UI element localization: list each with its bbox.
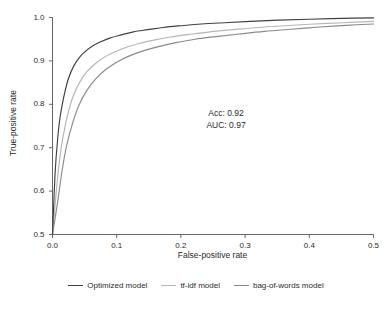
- legend-entry: Optimized model: [68, 281, 147, 290]
- accuracy-value: Acc: 0.92: [186, 107, 266, 119]
- legend-line-swatch: [234, 285, 249, 286]
- y-tick-label: 0.5: [23, 230, 45, 239]
- legend-label: Optimized model: [87, 281, 147, 290]
- auc-value: AUC: 0.97: [186, 119, 266, 131]
- legend-label: tf-idf model: [180, 281, 220, 290]
- x-tick-label: 0.5: [361, 241, 387, 250]
- metrics-annotation: Acc: 0.92 AUC: 0.97: [186, 107, 266, 131]
- roc-plot-canvas: [0, 0, 388, 315]
- y-tick-label: 0.8: [23, 99, 45, 108]
- x-axis-title: False-positive rate: [52, 250, 373, 260]
- x-tick-label: 0.2: [168, 241, 194, 250]
- x-tick-label: 0.4: [296, 241, 322, 250]
- x-tick-label: 0.0: [40, 241, 66, 250]
- y-tick-label: 1.0: [23, 13, 45, 22]
- chart-legend: Optimized modeltf-idf modelbag-of-words …: [46, 278, 346, 292]
- legend-entry: bag-of-words model: [234, 281, 324, 290]
- x-tick-label: 0.3: [232, 241, 258, 250]
- y-tick-label: 0.7: [23, 143, 45, 152]
- y-tick-label: 0.6: [23, 186, 45, 195]
- x-tick-label: 0.1: [104, 241, 130, 250]
- y-tick-label: 0.9: [23, 56, 45, 65]
- y-axis-title: True-positive rate: [8, 68, 18, 178]
- legend-line-swatch: [68, 285, 83, 286]
- legend-label: bag-of-words model: [253, 281, 324, 290]
- legend-entry: tf-idf model: [161, 281, 220, 290]
- roc-curve-figure: 0.50.60.70.80.91.0 0.00.10.20.30.40.5 Tr…: [0, 0, 388, 315]
- legend-line-swatch: [161, 285, 176, 286]
